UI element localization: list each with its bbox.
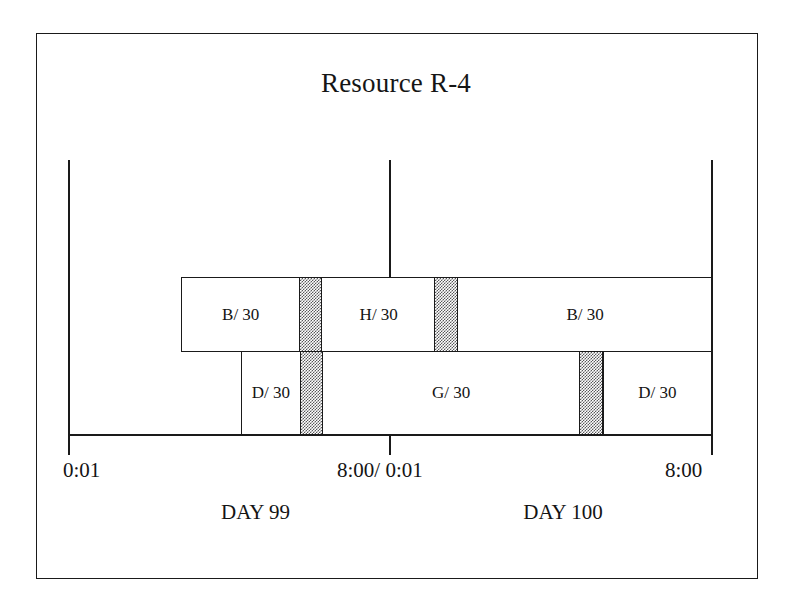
break-band xyxy=(579,352,603,434)
axis-tick-start xyxy=(68,160,70,455)
day-label-left: DAY 99 xyxy=(148,500,363,525)
task-segment[interactable]: B/ 30 xyxy=(458,278,711,351)
task-segment[interactable]: B/ 30 xyxy=(182,278,299,351)
task-segment[interactable]: G/ 30 xyxy=(323,352,579,434)
day-label-right: DAY 100 xyxy=(468,500,658,525)
axis-label-mid: 8:00/ 0:01 xyxy=(337,458,423,483)
axis-label-end: 8:00 xyxy=(665,458,702,483)
gantt-row-bottom: D/ 30 G/ 30 D/ 30 xyxy=(241,352,712,435)
gantt-row-top: B/ 30 H/ 30 B/ 30 xyxy=(181,277,712,352)
chart-page: Resource R-4 B/ 30 H/ 30 B/ 30 D/ 30 G/ … xyxy=(0,0,792,612)
page-title: Resource R-4 xyxy=(0,68,792,99)
task-segment[interactable]: D/ 30 xyxy=(603,352,711,434)
break-band xyxy=(300,352,323,434)
break-band xyxy=(299,278,322,351)
break-band xyxy=(434,278,458,351)
axis-label-start: 0:01 xyxy=(63,458,100,483)
task-segment[interactable]: H/ 30 xyxy=(322,278,434,351)
task-segment[interactable]: D/ 30 xyxy=(242,352,300,434)
